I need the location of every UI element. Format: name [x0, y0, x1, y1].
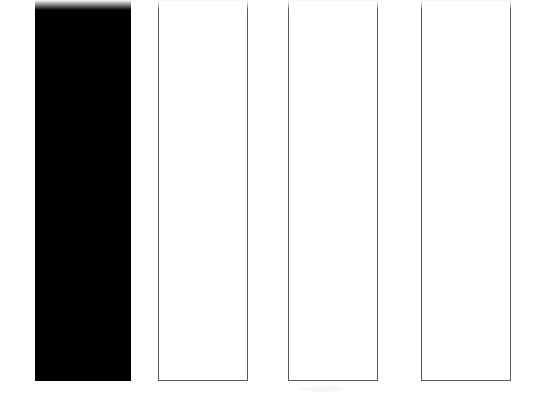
bar-3[interactable] — [288, 0, 378, 381]
bar-2[interactable] — [158, 0, 248, 381]
bar-4[interactable] — [421, 0, 511, 381]
bar-chart-figure — [0, 0, 548, 397]
bar-1[interactable] — [35, 0, 131, 381]
plot-area — [0, 0, 548, 397]
